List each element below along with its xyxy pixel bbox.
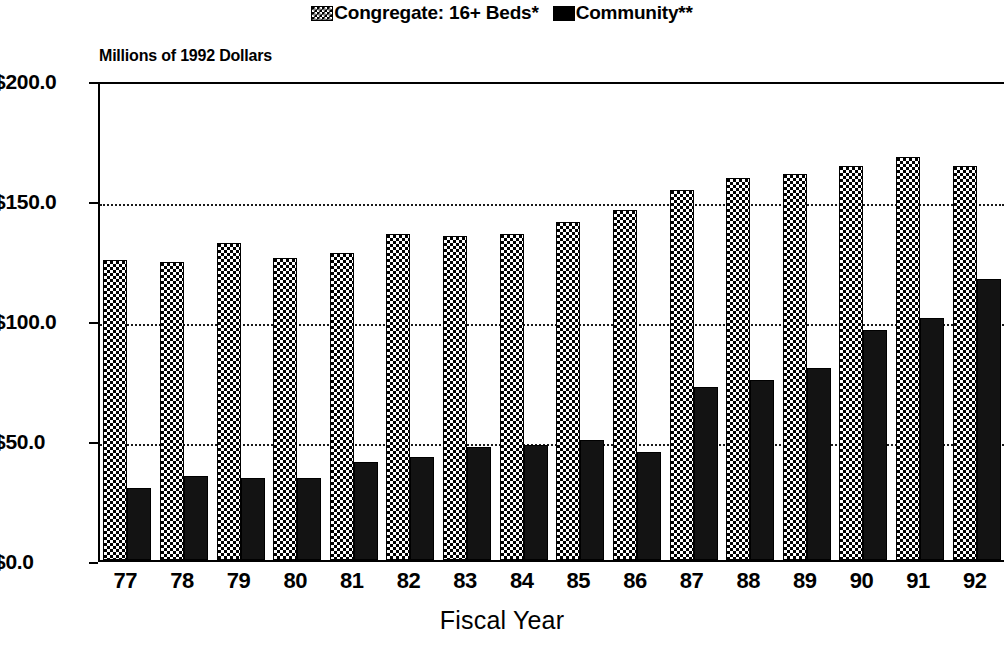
yaxis-tick-mark xyxy=(89,322,98,324)
xaxis-tick-label: 90 xyxy=(850,568,873,594)
bar-congregate xyxy=(670,190,694,560)
legend-label-congregate: Congregate: 16+ Beds* xyxy=(334,2,538,24)
bar-congregate xyxy=(500,234,524,560)
bar-congregate xyxy=(839,166,863,560)
bar-congregate xyxy=(726,178,750,560)
bar-congregate xyxy=(103,260,127,560)
chart-legend: Congregate: 16+ Beds* Community** xyxy=(0,2,1004,24)
solid-swatch-icon xyxy=(553,6,575,21)
xaxis-tick-label: 83 xyxy=(453,568,476,594)
bar-congregate xyxy=(613,210,637,560)
legend-item-congregate: Congregate: 16+ Beds* xyxy=(311,2,538,24)
xaxis-tick-label: 86 xyxy=(623,568,646,594)
bar-community xyxy=(977,279,1001,560)
bar-community xyxy=(920,318,944,560)
bar-congregate xyxy=(443,236,467,560)
bar-community xyxy=(750,380,774,560)
xaxis-tick-label: 81 xyxy=(340,568,363,594)
legend-item-community: Community** xyxy=(553,2,693,24)
xaxis-tick-label: 91 xyxy=(906,568,929,594)
bar-community xyxy=(524,445,548,560)
bar-community xyxy=(410,457,434,560)
xaxis-tick-label: 78 xyxy=(170,568,193,594)
legend-label-community: Community** xyxy=(576,2,693,24)
xaxis-tick-label: 79 xyxy=(227,568,250,594)
bar-community xyxy=(354,462,378,560)
bar-community xyxy=(127,488,151,560)
yaxis-unit-note: Millions of 1992 Dollars xyxy=(99,47,272,65)
bar-community xyxy=(694,387,718,560)
bar-congregate xyxy=(330,253,354,560)
bars-layer xyxy=(100,84,1004,560)
xaxis-tick-label: 87 xyxy=(680,568,703,594)
bar-chart: Congregate: 16+ Beds* Community** Millio… xyxy=(0,0,1004,645)
bar-community xyxy=(467,447,491,560)
xaxis-tick-label: 92 xyxy=(963,568,986,594)
bar-congregate xyxy=(953,166,977,560)
bar-community xyxy=(184,476,208,560)
bar-community xyxy=(241,478,265,560)
bar-congregate xyxy=(556,222,580,560)
xaxis-tick-label: 89 xyxy=(793,568,816,594)
xaxis-title: Fiscal Year xyxy=(0,606,1004,635)
xaxis-tick-label: 80 xyxy=(283,568,306,594)
bar-congregate xyxy=(896,157,920,560)
bar-congregate xyxy=(386,234,410,560)
yaxis-tick-mark xyxy=(89,562,98,564)
xaxis-tick-label: 88 xyxy=(736,568,759,594)
bar-community xyxy=(863,330,887,560)
xaxis-tick-label: 82 xyxy=(397,568,420,594)
yaxis-tick-mark xyxy=(89,442,98,444)
checkered-swatch-icon xyxy=(311,6,333,21)
xaxis-tick-label: 84 xyxy=(510,568,533,594)
yaxis-tick-mark xyxy=(89,82,98,84)
bar-community xyxy=(637,452,661,560)
bar-community xyxy=(297,478,321,560)
plot-area xyxy=(98,82,1004,562)
xaxis-tick-label: 77 xyxy=(114,568,137,594)
bar-congregate xyxy=(160,262,184,560)
bar-congregate xyxy=(783,174,807,560)
bar-community xyxy=(807,368,831,560)
bar-congregate xyxy=(217,243,241,560)
yaxis-tick-mark xyxy=(89,202,98,204)
bar-community xyxy=(580,440,604,560)
xaxis-tick-label: 85 xyxy=(567,568,590,594)
bar-congregate xyxy=(273,258,297,560)
